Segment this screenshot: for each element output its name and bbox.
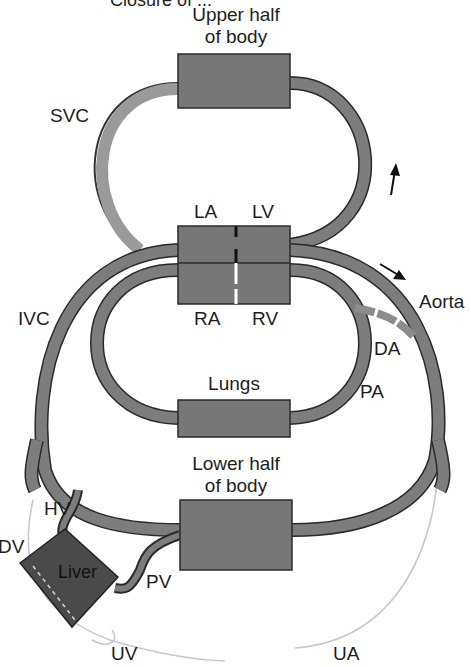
fetal-circulation-diagram: Closure of ... bbox=[0, 0, 471, 667]
liver: Liver bbox=[20, 529, 118, 627]
lungs-box bbox=[178, 400, 290, 437]
svc-label: SVC bbox=[50, 105, 89, 126]
svc-vessel bbox=[95, 83, 178, 250]
lower-body-label-2: of body bbox=[205, 475, 268, 496]
ua-line bbox=[295, 450, 438, 648]
pv-label: PV bbox=[146, 571, 172, 592]
lower-body-label-1: Lower half bbox=[192, 453, 280, 474]
pa-label: PA bbox=[360, 381, 384, 402]
lv-label: LV bbox=[252, 201, 274, 222]
heart-box bbox=[178, 226, 290, 304]
la-label: LA bbox=[194, 201, 218, 222]
upward-flow-arrow bbox=[390, 163, 400, 195]
ua-label: UA bbox=[333, 643, 360, 664]
da-label: DA bbox=[374, 338, 401, 359]
dv-label: DV bbox=[0, 536, 25, 557]
upper-aorta-loop bbox=[290, 83, 365, 245]
hv-label: HV bbox=[44, 498, 71, 519]
upper-body-label-1: Upper half bbox=[192, 4, 280, 25]
lungs-label: Lungs bbox=[208, 373, 260, 394]
aorta-label: Aorta bbox=[419, 291, 465, 312]
heart bbox=[178, 226, 290, 304]
lower-body-box bbox=[180, 500, 292, 570]
rv-label: RV bbox=[252, 308, 278, 329]
liver-label: Liver bbox=[58, 562, 97, 582]
ra-label: RA bbox=[194, 308, 221, 329]
upper-body-box bbox=[178, 54, 290, 108]
ivc-label: IVC bbox=[18, 308, 50, 329]
uv-label: UV bbox=[111, 643, 138, 664]
upper-body-label-2: of body bbox=[205, 26, 268, 47]
